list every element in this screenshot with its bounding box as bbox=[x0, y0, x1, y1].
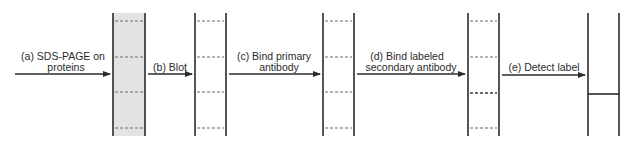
step-a-label: (a) SDS-PAGE on proteins bbox=[18, 51, 108, 73]
step-d-line2: secondary antibody bbox=[358, 62, 464, 73]
lane-gel bbox=[113, 13, 145, 136]
lane-secondary-bound bbox=[468, 13, 499, 136]
step-a-line2: proteins bbox=[18, 62, 108, 73]
step-e-label: (e) Detect label bbox=[504, 62, 584, 73]
blot-bands bbox=[197, 21, 224, 128]
lane-detected bbox=[588, 13, 619, 136]
step-c-line2: antibody bbox=[230, 62, 318, 73]
step-d-label: (d) Bind labeled secondary antibody bbox=[358, 51, 464, 73]
lane-primary-bound bbox=[323, 13, 354, 136]
primary-bands bbox=[325, 21, 352, 128]
lane-blot bbox=[195, 13, 226, 136]
step-c-label: (c) Bind primary antibody bbox=[230, 51, 318, 73]
secondary-bands bbox=[470, 21, 497, 128]
step-b-line1: (b) Blot bbox=[148, 62, 192, 73]
step-e-line1: (e) Detect label bbox=[504, 62, 584, 73]
western-blot-diagram: (a) SDS-PAGE on proteins (b) Blot (c) Bi… bbox=[0, 0, 634, 145]
step-b-label: (b) Blot bbox=[148, 62, 192, 73]
